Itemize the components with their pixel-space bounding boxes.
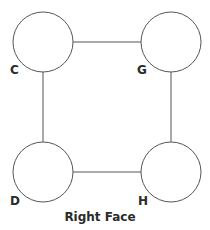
node-c xyxy=(13,12,73,72)
label-d: D xyxy=(10,195,20,207)
face-diagram xyxy=(0,0,210,230)
node-g xyxy=(141,12,201,72)
node-d xyxy=(13,142,73,202)
label-h: H xyxy=(138,195,148,207)
diagram-title: Right Face xyxy=(40,210,160,224)
label-c: C xyxy=(10,64,19,76)
node-h xyxy=(141,142,201,202)
label-g: G xyxy=(137,64,147,76)
